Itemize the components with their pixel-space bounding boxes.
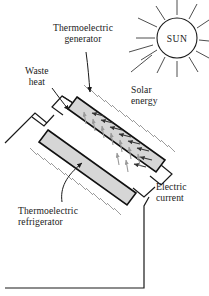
label-solar-energy: Solar energy [131,84,158,106]
label-generator-line1: Thermoelectric [53,22,113,33]
label-generator-line2: generator [53,33,113,44]
thermoelectric-diagram [0,0,209,296]
label-waste-heat-line1: Waste [25,65,49,76]
label-sun: SUN [163,33,191,44]
label-refrigerator-line2: refrigerator [18,216,78,227]
label-refrigerator-line1: Thermoelectric [18,205,78,216]
label-solar-energy-line1: Solar [131,84,158,95]
left-wire-connector [32,96,73,126]
figure-canvas: Thermoelectric generator Waste heat Sola… [0,0,209,296]
label-electric-current: Electric current [156,181,187,203]
generator-leader [86,52,90,92]
label-electric-current-line1: Electric [156,181,187,192]
label-thermoelectric-refrigerator: Thermoelectric refrigerator [18,205,78,227]
label-waste-heat: Waste heat [25,65,49,87]
label-waste-heat-line2: heat [25,76,49,87]
label-electric-current-line2: current [156,192,187,203]
label-solar-energy-line2: energy [131,95,158,106]
label-thermoelectric-generator: Thermoelectric generator [53,22,113,44]
